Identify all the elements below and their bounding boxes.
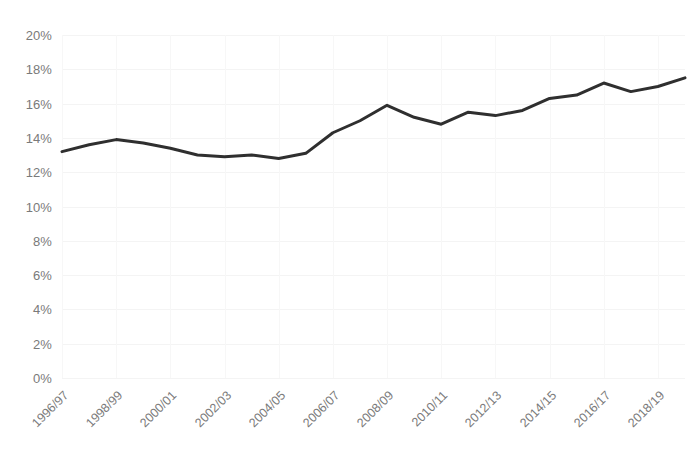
- data-series-layer: [0, 0, 698, 476]
- line-chart-figure: 20%18%16%14%12%10%8%6%4%2%0% 1996/971998…: [0, 0, 698, 476]
- series-line: [62, 78, 685, 159]
- figure-caption: [0, 464, 698, 476]
